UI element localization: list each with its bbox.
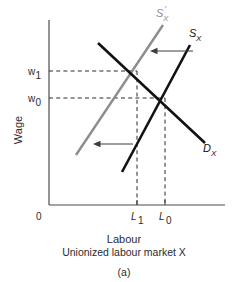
y-axis-value-labels: w 1 w 0	[27, 66, 42, 108]
x-axis-value-labels: L 1 L 0	[131, 211, 172, 226]
label-w1-sub: 1	[36, 70, 42, 81]
labour-market-chart: S ′ X S X D X w 1 w 0	[0, 0, 233, 282]
label-L0-base: L	[159, 211, 165, 222]
panel-label: (a)	[118, 266, 131, 278]
label-w1: w 1	[27, 66, 42, 81]
label-L1-base: L	[131, 211, 137, 222]
label-w0: w 0	[27, 93, 42, 108]
origin-label: 0	[36, 211, 42, 222]
label-supply-original-sub: X	[195, 34, 202, 43]
supply-curve-original	[122, 45, 190, 172]
y-axis-title: Wage	[12, 116, 24, 144]
label-supply-original: S X	[189, 27, 202, 43]
x-axis-ticks	[137, 200, 165, 205]
label-L1: L 1	[131, 211, 144, 226]
label-w0-sub: 0	[36, 97, 42, 108]
label-L0: L 0	[159, 211, 172, 226]
label-L0-sub: 0	[166, 215, 172, 226]
label-supply-shifted: S ′ X	[156, 4, 169, 23]
label-demand-base: D	[203, 142, 211, 154]
x-axis-subtitle: Unionized labour market X	[62, 246, 186, 258]
x-axis-title: Labour	[107, 233, 142, 245]
economics-figure: S ′ X S X D X w 1 w 0	[0, 0, 233, 282]
label-supply-shifted-sub: X	[162, 14, 169, 23]
lower-shift-arrow-icon	[93, 141, 133, 147]
demand-curve	[98, 43, 205, 143]
label-supply-shifted-prime: ′	[165, 4, 167, 14]
label-demand: D X	[203, 142, 217, 158]
label-L1-sub: 1	[138, 215, 144, 226]
axes-group	[49, 20, 225, 205]
label-demand-sub: X	[210, 149, 217, 158]
